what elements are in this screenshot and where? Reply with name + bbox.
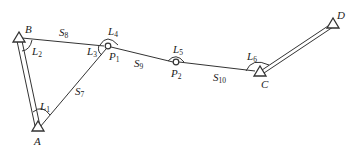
side-s7: [40, 49, 106, 127]
label-c: C: [261, 78, 269, 90]
traverse-point-p2-icon: [173, 59, 179, 65]
label-p2: P2: [170, 67, 182, 81]
label-l6: L6: [246, 50, 257, 64]
label-b: B: [25, 23, 32, 35]
label-l5: L5: [172, 43, 183, 57]
label-a: A: [33, 135, 41, 147]
label-d: D: [336, 9, 345, 21]
traverse-point-p1-icon: [105, 43, 111, 49]
label-s10: S10: [213, 71, 226, 85]
known-side-cd: [262, 24, 333, 73]
label-l2: L2: [31, 45, 42, 59]
traverse-diagram: B A C D P1 P2 S8 S7 S9 S10 L1 L2 L3 L4 L…: [0, 0, 356, 151]
control-point-b-icon: [13, 32, 25, 42]
label-s9: S9: [134, 57, 144, 71]
side-s10: [179, 62, 255, 71]
label-s7: S7: [75, 85, 85, 99]
label-p1: P1: [108, 50, 120, 64]
label-s8: S8: [59, 26, 69, 40]
angle-arc-l3: [98, 45, 102, 55]
label-l3: L3: [86, 45, 97, 59]
label-l1: L1: [39, 100, 50, 114]
control-point-c-icon: [254, 66, 266, 76]
label-l4: L4: [107, 25, 118, 39]
side-s9: [111, 47, 173, 62]
